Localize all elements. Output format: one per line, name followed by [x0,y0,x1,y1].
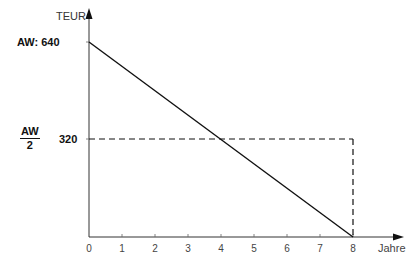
aw-half-fraction: AW 2 [20,126,40,151]
x-tick-label: 8 [350,243,356,254]
y-axis-arrow-icon [86,8,93,19]
x-tick-label: 1 [119,243,125,254]
x-axis-arrow-icon [393,234,404,241]
x-axis-label: Jahre [378,243,406,254]
x-tick-label: 5 [251,243,257,254]
x-tick-label: 4 [218,243,224,254]
x-tick-label: 6 [284,243,290,254]
x-tick-label: 2 [152,243,158,254]
y-axis-label: TEUR [56,11,86,22]
x-tick-label: 0 [86,243,92,254]
x-tick-label: 3 [185,243,191,254]
aw-640-label: AW: 640 [17,37,60,48]
fraction-numerator: AW [20,126,40,139]
x-tick-label: 7 [317,243,323,254]
fraction-denominator: 2 [20,139,40,151]
half-value-label: 320 [59,134,77,145]
